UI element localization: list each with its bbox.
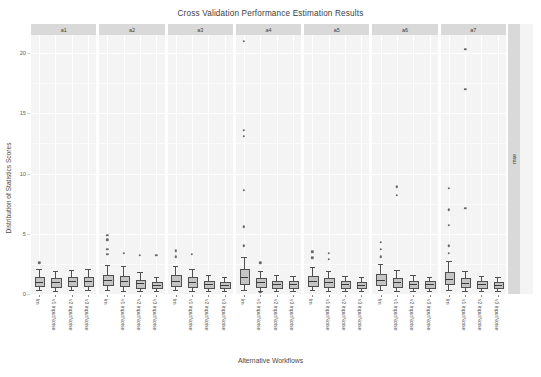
whisker-cap-lower [394,291,399,292]
whisker-cap-lower [427,291,432,292]
whisker-cap-lower [378,290,383,291]
x-tick-label: v2 inputNoise [136,299,142,330]
x-tick-group-a2: lmv1 inputNoisev2 inputNoisev3 inputNois… [99,295,164,357]
y-axis: 0–5–10–15–20– [0,0,30,377]
boxplot-v2-inputNoise[interactable] [341,35,349,294]
median-line [425,284,433,285]
outlier-point [139,254,141,256]
boxplot-v1-inputNoise[interactable] [51,35,59,294]
median-line [494,285,502,286]
facet-strip-label: a7 [441,24,506,35]
boxplot-v3-inputNoise[interactable] [84,35,92,294]
x-tick-label: lm [377,299,383,304]
whisker-cap-lower [173,290,178,291]
whisker-cap-lower [189,291,194,292]
whisker-cap-lower [446,290,451,291]
boxplot-lm[interactable] [376,35,384,294]
boxplot-lm[interactable] [103,35,111,294]
whisker-cap-upper [258,271,263,272]
x-tick-mark [107,295,108,297]
whisker-cap-upper [446,261,451,262]
whisker-cap-upper [154,277,159,278]
median-line [103,280,111,281]
outlier-point [396,194,398,196]
median-line [240,277,248,278]
boxplot-v1-inputNoise[interactable] [188,35,196,294]
x-tick-label: v3 inputNoise [357,299,363,330]
boxplot-v2-inputNoise[interactable] [204,35,212,294]
x-tick-label: v1 inputNoise [461,299,467,330]
x-tick-mark [498,295,499,297]
boxplot-lm[interactable] [35,35,43,294]
x-tick-mark [293,295,294,297]
boxplot-v1-inputNoise[interactable] [461,35,469,294]
outlier-point [327,258,329,260]
facet-strip-right: mse [508,24,520,294]
whisker-cap-upper [495,277,500,278]
x-tick-group-a6: lmv1 inputNoisev2 inputNoisev3 inputNois… [372,295,437,357]
boxplot-v2-inputNoise[interactable] [272,35,280,294]
median-line [477,284,485,285]
outlier-point [175,249,177,251]
x-tick-label: lm [103,299,109,304]
y-axis-tick-label: 5– [23,231,30,237]
median-line [136,283,144,284]
whisker-cap-upper [326,271,331,272]
x-tick-group-a5: lmv1 inputNoisev2 inputNoisev3 inputNois… [304,295,369,357]
boxplot-v3-inputNoise[interactable] [425,35,433,294]
x-tick-label: v3 inputNoise [426,299,432,330]
outlier-point [259,261,261,263]
x-tick-mark [277,295,278,297]
whisker-cap-upper [53,271,58,272]
median-line [272,284,280,285]
boxplot-v1-inputNoise[interactable] [393,35,401,294]
boxplot-v3-inputNoise[interactable] [494,35,502,294]
x-tick-mark [88,295,89,297]
boxplot-v2-inputNoise[interactable] [136,35,144,294]
median-line [324,282,332,283]
boxplot-v3-inputNoise[interactable] [152,35,160,294]
boxplot-lm[interactable] [445,35,453,294]
whisker-cap-upper [189,269,194,270]
whisker-cap-lower [310,290,315,291]
median-line [308,281,316,282]
whisker-cap-lower [53,291,58,292]
boxplot-v3-inputNoise[interactable] [220,35,228,294]
whisker-cap-upper [410,275,415,276]
x-tick-label: v3 inputNoise [152,299,158,330]
boxplot-lm[interactable] [240,35,248,294]
facet-right-empty-panel [520,24,533,294]
boxplot-v2-inputNoise[interactable] [68,35,76,294]
y-axis-tick-label: 20– [20,50,30,56]
outlier-point [379,248,381,250]
median-line [35,282,43,283]
x-axis-tick-labels: lmv1 inputNoisev2 inputNoisev3 inputNois… [31,295,506,357]
median-line [256,282,264,283]
boxplot-v1-inputNoise[interactable] [120,35,128,294]
whisker-cap-upper [137,272,142,273]
median-line [152,285,160,286]
median-line [393,282,401,283]
whisker-cap-upper [342,276,347,277]
outlier-point [379,241,381,243]
boxplot-lm[interactable] [171,35,179,294]
box-iqr [494,282,504,290]
outlier-point [243,245,245,247]
boxplot-v1-inputNoise[interactable] [256,35,264,294]
facet-panel-a1: a1 [31,24,96,294]
boxplot-v3-inputNoise[interactable] [289,35,297,294]
outlier-point [106,253,108,255]
boxplot-v2-inputNoise[interactable] [477,35,485,294]
whisker-cap-lower [69,290,74,291]
boxplot-lm[interactable] [308,35,316,294]
panel-plot-area [99,35,164,294]
x-tick-label: v2 inputNoise [204,299,210,330]
x-tick-label: v1 inputNoise [393,299,399,330]
boxplot-v1-inputNoise[interactable] [324,35,332,294]
whisker-cap-lower [121,291,126,292]
boxplot-v2-inputNoise[interactable] [409,35,417,294]
x-tick-label: v3 inputNoise [84,299,90,330]
x-tick-mark [449,295,450,297]
outlier-point [464,88,466,90]
boxplot-v3-inputNoise[interactable] [357,35,365,294]
